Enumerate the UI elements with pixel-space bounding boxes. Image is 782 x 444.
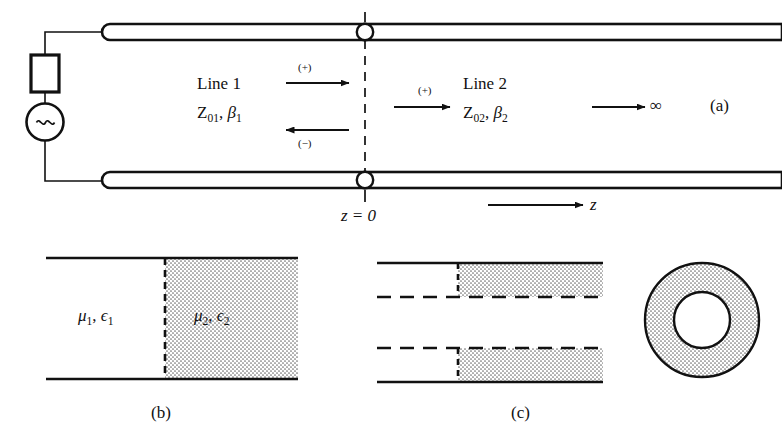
line2-termination-infinity: ∞	[650, 97, 662, 114]
panel-c-lower-medium2-shading	[458, 348, 603, 382]
medium1-mu-symbol: μ	[78, 306, 87, 325]
coax-cross-section-icon	[645, 263, 759, 377]
panel-b-medium2-label: μ2, ϵ2	[194, 307, 229, 327]
panel-b-part-label: (b)	[151, 404, 171, 421]
upper-conductor-line2	[365, 24, 782, 40]
panel-b-medium1-label: μ1, ϵ1	[78, 307, 113, 327]
figure-svg	[0, 0, 782, 444]
medium2-comma: ,	[208, 306, 217, 325]
line1-beta-symbol: β	[227, 103, 235, 122]
junction-terminal-bottom	[357, 172, 373, 188]
line1-name: Line 1	[197, 75, 241, 92]
lower-conductor-line1	[102, 172, 365, 188]
panel-c-upper-medium2-shading	[458, 263, 603, 297]
upper-conductor-line1	[102, 24, 365, 40]
medium1-comma: ,	[92, 306, 101, 325]
figure-container: (+) Line 1 Z01, β1 (−) (+) Line 2 Z02, β…	[0, 0, 782, 444]
line2-Z-symbol: Z	[463, 103, 473, 122]
ac-source-icon	[27, 104, 64, 141]
z-axis-label: z	[590, 196, 597, 213]
line1-forward-wave-marker: (+)	[298, 62, 312, 73]
medium1-eps-subscript: 1	[108, 315, 114, 328]
junction-position-label: z = 0	[341, 207, 376, 224]
line2-name: Line 2	[463, 75, 507, 92]
medium2-mu-symbol: μ	[194, 306, 203, 325]
line2-forward-wave-marker: (+)	[418, 85, 432, 96]
junction-terminal-top	[357, 24, 373, 40]
panel-c-part-label: (c)	[511, 404, 530, 421]
line1-backward-wave-marker: (−)	[298, 138, 312, 149]
line2-parameters: Z02, β2	[463, 104, 508, 124]
panel-b-medium2-shading	[165, 258, 298, 379]
line1-beta-subscript: 1	[236, 112, 242, 125]
lower-conductor-line2	[365, 172, 782, 188]
line1-Z-symbol: Z	[197, 103, 207, 122]
line2-Z-subscript: 02	[473, 112, 485, 125]
line1-parameters: Z01, β1	[197, 104, 242, 124]
medium2-eps-subscript: 2	[224, 315, 230, 328]
line2-beta-symbol: β	[493, 103, 501, 122]
panel-a-part-label: (a)	[710, 97, 729, 114]
medium2-eps-symbol: ϵ	[217, 306, 224, 325]
line2-beta-subscript: 2	[502, 112, 508, 125]
line1-Z-subscript: 01	[207, 112, 219, 125]
medium1-eps-symbol: ϵ	[101, 306, 108, 325]
resistor-icon	[31, 55, 59, 92]
